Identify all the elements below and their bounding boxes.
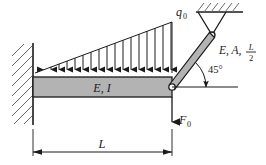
dimension-L: L [33,129,172,156]
ceiling-hatching [197,3,239,12]
wall-hatching [12,44,32,124]
beam-label: E, I [92,81,111,95]
angle-label: 45° [208,64,223,75]
pin-support-assembly [196,3,243,38]
distributed-load: q 0 [35,5,187,73]
point-load-label: F [178,113,187,127]
inclined-bar-member [169,33,215,91]
engineering-diagram: E, I [0,0,266,165]
dimension-label: L [98,137,106,151]
distributed-load-subscript: 0 [183,12,187,21]
distributed-load-label: q [176,5,182,19]
bar-label-fraction-numerator: L [248,42,254,52]
bar-label-fraction-denominator: 2 [249,53,253,63]
bar-label-group: E, A, L 2 [218,42,256,63]
fixed-wall-support [12,43,33,125]
bar-body [170,33,215,90]
point-load: F 0 [172,97,191,129]
point-load-subscript: 0 [187,120,191,129]
bar-label-prefix: E, A, [218,44,242,57]
load-envelope [35,22,172,73]
diagram-canvas: E, I [0,0,266,165]
angle-arc [196,63,206,87]
beam-member: E, I [33,77,172,97]
